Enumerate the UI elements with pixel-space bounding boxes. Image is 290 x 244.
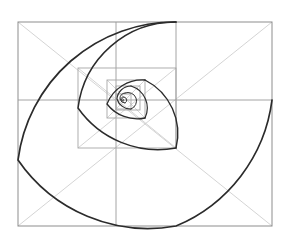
spiral-arc-8: [120, 93, 125, 103]
spiral-arc-3: [145, 80, 178, 148]
construction-diagonals: [18, 22, 272, 226]
golden-spiral-figure: Golden Ratio Fibonacci Spiral Golden spi…: [0, 0, 290, 244]
golden-spiral-svg: [0, 0, 290, 244]
